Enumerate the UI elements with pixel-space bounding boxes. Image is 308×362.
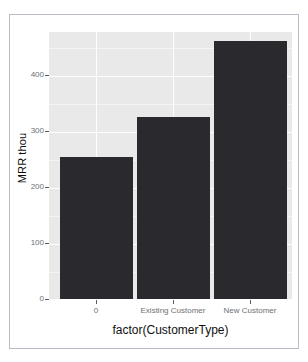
- bar-category-0[interactable]: [60, 157, 133, 299]
- x-tick-mark-cat-1: [173, 300, 174, 304]
- x-tick-label-cat-2: New Customer: [208, 307, 292, 315]
- y-tick-mark-200: [45, 187, 49, 188]
- y-tick-label-200: 200: [20, 183, 44, 191]
- x-tick-mark-cat-2: [250, 300, 251, 304]
- bar-chart-figure: MRR thou 400 300 200 100 0 0 Existing Cu…: [0, 0, 308, 362]
- y-tick-mark-0: [45, 299, 49, 300]
- y-tick-mark-300: [45, 131, 49, 132]
- bar-category-new-customer[interactable]: [214, 41, 287, 299]
- y-tick-label-400: 400: [20, 71, 44, 79]
- y-tick-mark-400: [45, 75, 49, 76]
- x-axis-title: factor(CustomerType): [49, 323, 292, 337]
- y-axis-tick-labels: 400 300 200 100 0: [20, 0, 44, 362]
- plot-panel: [49, 32, 292, 299]
- y-tick-label-300: 300: [20, 127, 44, 135]
- bar-category-existing-customer[interactable]: [137, 117, 210, 299]
- x-tick-label-cat-1: Existing Customer: [128, 307, 218, 315]
- x-tick-label-cat-0: 0: [56, 307, 136, 315]
- y-tick-mark-100: [45, 243, 49, 244]
- y-tick-label-100: 100: [20, 239, 44, 247]
- y-tick-label-0: 0: [20, 295, 44, 303]
- x-tick-mark-cat-0: [96, 300, 97, 304]
